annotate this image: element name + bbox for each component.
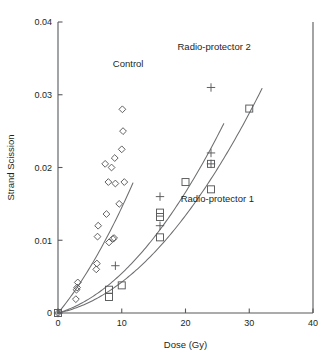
data-point-diamond (94, 233, 101, 240)
strand-scission-dose-scatter-plot: 010203040 00.010.020.030.04 Dose (Gy) St… (0, 0, 332, 364)
data-point-diamond (93, 266, 100, 273)
data-point-diamond (103, 211, 110, 218)
x-tick-label: 0 (55, 318, 60, 328)
plot-axes (58, 22, 313, 313)
data-point-plus (156, 222, 164, 230)
y-tick-label: 0.02 (34, 163, 52, 173)
axis-lines (58, 22, 313, 313)
data-point-square (118, 282, 125, 289)
data-point-diamond (121, 179, 128, 186)
data-point-diamond (106, 239, 113, 246)
data-point-diamond (120, 128, 127, 135)
data-point-square (157, 213, 164, 220)
x-tick-label: 30 (244, 318, 254, 328)
data-point-diamond (95, 222, 102, 229)
data-point-plus (207, 149, 215, 157)
data-point-square (157, 209, 164, 216)
series-label-control: Control (113, 58, 144, 69)
x-tick-label: 40 (308, 318, 318, 328)
fit-curve-radio-protector-2 (58, 124, 224, 313)
series-label-radio-protector-2: Radio-protector 2 (177, 41, 250, 52)
data-point-plus (207, 83, 215, 91)
y-axis-title: Strand Scission (5, 134, 16, 200)
x-axis-title: Dose (Gy) (164, 339, 207, 350)
data-point-diamond (93, 260, 100, 267)
data-point-plus (207, 160, 215, 168)
data-point-diamond (111, 155, 118, 162)
x-tick-label: 20 (180, 318, 190, 328)
data-point-diamond (118, 146, 125, 153)
data-point-diamond (72, 296, 79, 303)
y-tick-label: 0.04 (34, 17, 52, 27)
data-point-diamond (108, 164, 115, 171)
data-point-plus (111, 262, 119, 270)
x-axis-tick-labels: 010203040 (55, 318, 318, 328)
data-point-diamond (105, 179, 112, 186)
y-tick-label: 0.03 (34, 90, 52, 100)
data-point-plus (156, 192, 164, 200)
data-point-diamond (119, 106, 126, 113)
data-point-diamond (112, 180, 119, 187)
y-tick-label: 0.01 (34, 236, 52, 246)
series-annotations: ControlRadio-protector 2Radio-protector … (113, 41, 254, 205)
data-point-square (106, 293, 113, 300)
data-point-diamond (116, 200, 123, 207)
data-point-square (208, 186, 215, 193)
y-tick-label: 0 (47, 308, 52, 318)
series-label-radio-protector-1: Radio-protector 1 (181, 193, 254, 204)
y-axis-tick-labels: 00.010.020.030.04 (34, 17, 52, 318)
x-tick-label: 10 (117, 318, 127, 328)
chart-figure: 010203040 00.010.020.030.04 Dose (Gy) St… (0, 0, 332, 364)
data-point-square (157, 234, 164, 241)
data-point-diamond (102, 160, 109, 167)
data-point-square (182, 179, 189, 186)
tick-marks (58, 22, 313, 313)
